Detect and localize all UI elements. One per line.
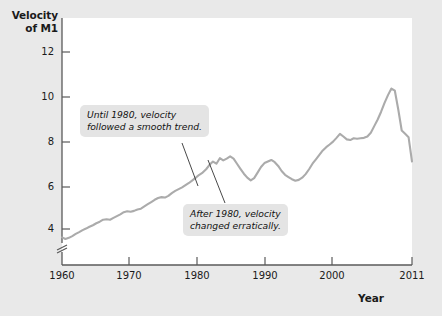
- annotation-1-line1: Until 1980, velocity: [87, 109, 202, 121]
- annotation-callout-after-1980: After 1980, velocity changed erratically…: [183, 204, 288, 236]
- annotation-callout-until-1980: Until 1980, velocity followed a smooth t…: [80, 105, 209, 137]
- annotation-2-line2: changed erratically.: [190, 220, 281, 232]
- callout-1-leader-line: [182, 143, 198, 186]
- annotation-1-line2: followed a smooth trend.: [87, 121, 202, 133]
- annotation-2-line1: After 1980, velocity: [190, 208, 281, 220]
- chart-vector-layer: [0, 0, 442, 316]
- callout-2-leader-line: [208, 160, 225, 203]
- chart-figure: Velocity of M1 Year 12 10 8 6 4 1960 197…: [0, 0, 442, 316]
